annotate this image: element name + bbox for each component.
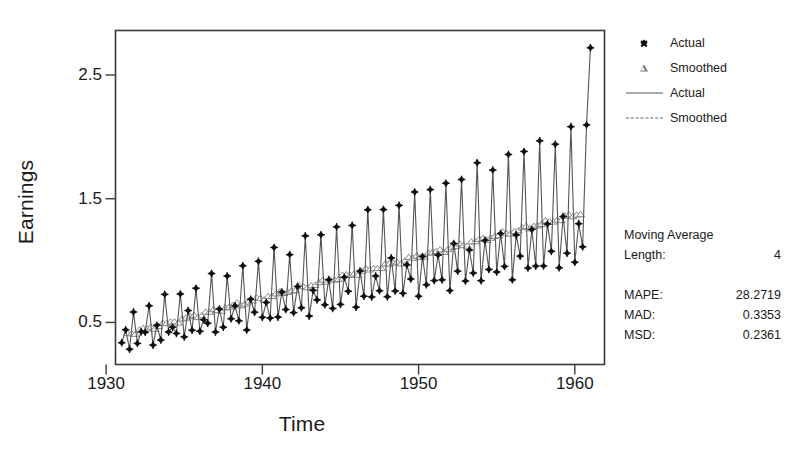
actual-data-point: [411, 188, 419, 196]
actual-data-point: [571, 259, 579, 267]
actual-data-point: [360, 292, 368, 300]
legend-item-smoothed-marker: Smoothed: [624, 55, 789, 80]
actual-data-point: [489, 166, 497, 174]
actual-data-point: [477, 277, 485, 285]
actual-data-point: [364, 206, 372, 214]
dashed-line-icon: [626, 117, 663, 118]
actual-data-point: [298, 304, 306, 312]
measure-row-mape: MAPE: 28.2719: [624, 288, 789, 302]
actual-data-point: [219, 323, 227, 331]
actual-data-point: [321, 301, 329, 309]
actual-data-point: [555, 264, 563, 272]
x-axis-title: Time: [0, 412, 604, 436]
measure-row-msd: MSD: 0.2361: [624, 328, 789, 342]
actual-data-point: [239, 262, 247, 270]
measure-value-mad: 0.3353: [743, 308, 781, 322]
actual-data-point: [337, 301, 345, 309]
x-tick-label: 1940: [243, 374, 281, 394]
actual-data-point: [485, 266, 493, 274]
actual-data-point: [548, 248, 556, 256]
x-axis-ticks: [106, 365, 575, 375]
actual-data-point: [161, 291, 169, 299]
actual-data-point: [380, 206, 388, 214]
actual-data-point: [196, 327, 204, 335]
actual-data-point: [516, 252, 524, 260]
actual-data-point: [532, 262, 540, 270]
legend-key-smoothed-line: [624, 105, 670, 130]
actual-data-point: [305, 312, 313, 320]
actual-data-point: [520, 148, 528, 156]
actual-data-point: [317, 231, 325, 239]
actual-data-point: [177, 290, 185, 298]
actual-data-point: [469, 269, 477, 277]
actual-data-point: [352, 303, 360, 311]
actual-data-point: [145, 302, 153, 310]
actual-data-point: [212, 328, 220, 336]
actual-data-point: [446, 287, 454, 295]
actual-data-point: [235, 317, 243, 325]
solid-line-icon: [626, 92, 663, 93]
legend-label-smoothed-line: Smoothed: [670, 111, 727, 125]
actual-data-point: [524, 264, 532, 272]
y-tick-label: 0.5: [50, 312, 102, 332]
legend-label-smoothed-marker: Smoothed: [670, 61, 727, 75]
actual-data-point: [184, 307, 192, 315]
actual-data-point: [274, 313, 282, 321]
actual-data-point: [372, 272, 380, 280]
actual-data-point: [251, 308, 259, 316]
actual-data-point: [567, 123, 575, 131]
accuracy-measures: MAPE: 28.2719 MAD: 0.3353 MSD: 0.2361: [624, 288, 789, 342]
actual-data-point: [391, 287, 399, 295]
measure-label-msd: MSD:: [624, 328, 655, 342]
legend-label-actual-marker: Actual: [670, 36, 705, 50]
actual-data-point: [430, 277, 438, 285]
x-tick-label: 1950: [400, 374, 438, 394]
actual-data-point: [551, 140, 559, 148]
actual-data-point: [286, 251, 294, 259]
actual-data-point: [157, 336, 165, 344]
actual-data-point: [384, 293, 392, 301]
actual-data-point: [180, 333, 188, 341]
actual-data-point: [329, 305, 337, 313]
actual-data-point: [266, 314, 274, 322]
actual-data-point: [344, 288, 352, 296]
actual-data-point: [208, 270, 216, 278]
actual-data-point: [333, 223, 341, 231]
actual-data-point: [399, 290, 407, 298]
actual-data-point: [473, 159, 481, 167]
actual-data-point: [407, 275, 415, 283]
actual-data-point: [134, 340, 142, 348]
actual-data-point: [505, 151, 513, 159]
y-tick-label: 1.5: [50, 189, 102, 209]
actual-data-point: [282, 306, 290, 314]
actual-data-point: [458, 176, 466, 184]
measure-row-mad: MAD: 0.3353: [624, 308, 789, 322]
actual-data-point: [587, 44, 595, 52]
chart-page: Time Earnings 1930194019501960 0.51.52.5…: [0, 0, 789, 458]
actual-data-point: [462, 277, 470, 285]
method-length-label: Length:: [624, 248, 666, 262]
method-length-row: Length: 4: [624, 248, 789, 262]
measure-label-mad: MAD:: [624, 308, 655, 322]
measure-value-mape: 28.2719: [736, 288, 781, 302]
actual-data-point: [579, 243, 587, 251]
actual-data-point: [259, 314, 267, 322]
x-tick-label: 1930: [87, 374, 125, 394]
actual-data-point: [438, 276, 446, 284]
actual-data-point: [227, 315, 235, 323]
chart-legend: Actual Smoothed Actual Smoothed: [624, 30, 789, 130]
actual-data-point: [348, 222, 356, 230]
actual-data-point: [442, 179, 450, 187]
open-triangle-icon: [640, 64, 648, 71]
actual-data-point: [415, 292, 423, 300]
legend-key-actual-marker: [624, 30, 670, 55]
filled-diamond-icon: [640, 39, 647, 46]
actual-data-point: [583, 121, 591, 129]
y-axis-ticks: [106, 75, 116, 322]
actual-data-point: [423, 281, 431, 289]
actual-data-point: [313, 296, 321, 304]
accuracy-panel: Moving Average Length: 4 MAPE: 28.2719 M…: [624, 228, 789, 348]
method-length-value: 4: [774, 248, 781, 262]
actual-data-point: [509, 276, 517, 284]
actual-data-point: [290, 309, 298, 317]
